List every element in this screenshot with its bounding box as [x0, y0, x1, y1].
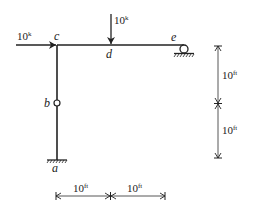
horizontal-load-unit: k: [28, 30, 32, 38]
svg-text:10k: 10k: [17, 30, 32, 42]
dim-horizontal-right-unit: ft: [138, 182, 142, 190]
roller-support-icon: [174, 45, 194, 57]
dim-vertical-upper-unit: ft: [233, 69, 237, 77]
horizontal-load-value: 10: [17, 30, 29, 42]
svg-text:10ft: 10ft: [222, 124, 237, 136]
dim-vertical-lower-unit: ft: [233, 124, 237, 132]
node-label-a: a: [52, 161, 58, 175]
vertical-load-unit: k: [125, 14, 129, 22]
hinge-icon: [54, 100, 60, 106]
dim-horizontal-left-value: 10: [73, 182, 85, 194]
node-label-c: c: [54, 29, 60, 43]
frame-diagram: 10k 10k c d e b a 10ft 10ft 10ft 10ft: [0, 0, 255, 214]
node-label-b: b: [44, 96, 50, 110]
dim-vertical-lower-value: 10: [222, 124, 234, 136]
dim-vertical-upper-value: 10: [222, 69, 234, 81]
vertical-dimension: [214, 46, 222, 158]
svg-text:10ft: 10ft: [222, 69, 237, 81]
svg-text:10ft: 10ft: [127, 182, 142, 194]
node-label-e: e: [171, 30, 177, 44]
dim-horizontal-right-value: 10: [127, 182, 139, 194]
svg-text:10ft: 10ft: [73, 182, 88, 194]
node-label-d: d: [106, 47, 113, 61]
svg-text:10k: 10k: [114, 14, 129, 26]
vertical-load-value: 10: [114, 14, 126, 26]
dim-horizontal-left-unit: ft: [84, 182, 88, 190]
